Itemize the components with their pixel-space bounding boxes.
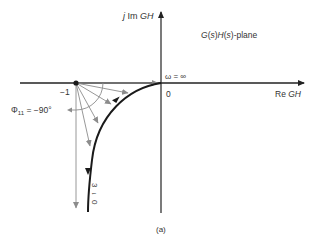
omega-zero-label: 3 [90, 183, 99, 188]
figure-caption: (a) [156, 225, 166, 234]
omega-infinity-label: ω = ∞ [165, 72, 186, 81]
nyquist-diagram: j Im GH G(s)H(s)-plane ω = ∞ 0 Re GH −1 … [0, 0, 322, 250]
imag-axis-label: j Im GH [122, 11, 154, 21]
omega-zero-value: 0 [90, 200, 99, 205]
arc-arrowhead-icon [67, 108, 72, 113]
origin-label: 0 [166, 89, 171, 99]
omega-zero-arrow: ↓ [91, 192, 98, 196]
critical-point [73, 80, 78, 85]
plane-label: G(s)H(s)-plane [201, 30, 258, 40]
minus-one-label: −1 [60, 87, 70, 97]
svg-text:↓: ↓ [91, 192, 98, 196]
real-axis-label: Re GH [275, 89, 302, 99]
svg-text:3: 3 [90, 183, 99, 188]
phase-label: Φ11 = −90° [11, 105, 52, 116]
svg-text:0: 0 [90, 200, 99, 205]
